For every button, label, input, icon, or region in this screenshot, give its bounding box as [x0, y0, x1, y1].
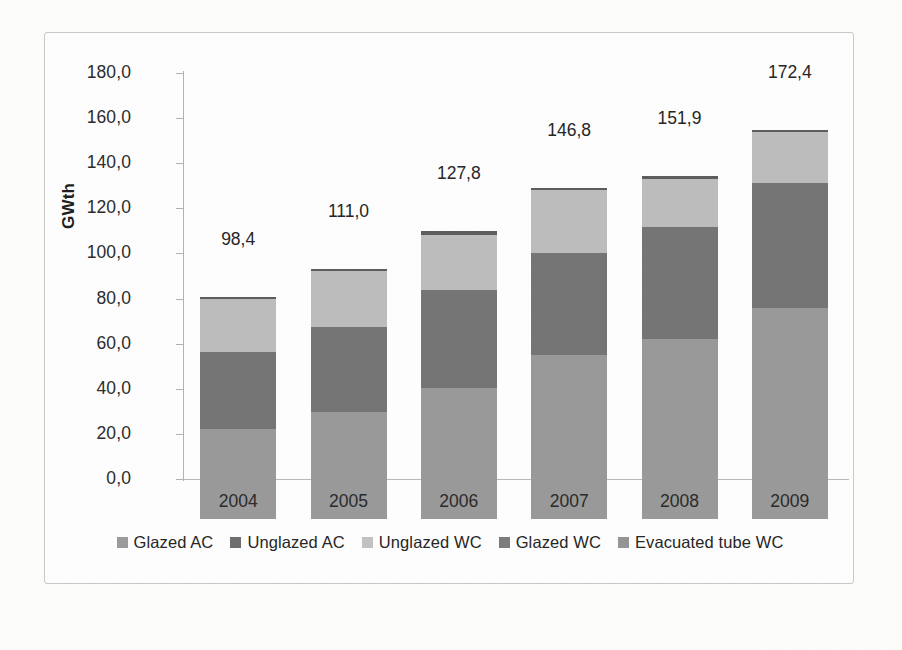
y-axis-tick-label: 180,0 — [47, 62, 131, 83]
bar-segment[interactable] — [642, 176, 718, 178]
bar-segment[interactable] — [531, 253, 607, 356]
legend-swatch-icon — [117, 537, 128, 548]
y-axis-tick-label: 40,0 — [47, 378, 131, 399]
y-axis-tick-label: 20,0 — [47, 423, 131, 444]
legend-item[interactable]: Evacuated tube WC — [618, 533, 783, 552]
bar-total-label: 172,4 — [724, 62, 856, 83]
bar-segment[interactable] — [642, 227, 718, 339]
bar-segment[interactable] — [752, 308, 828, 519]
legend-swatch-icon — [230, 537, 241, 548]
bar-group[interactable] — [311, 113, 387, 519]
legend-label: Unglazed WC — [379, 533, 482, 552]
y-axis-tick — [176, 253, 183, 254]
y-axis-tick — [176, 299, 183, 300]
bar-stack[interactable] — [421, 231, 497, 519]
y-axis-tick-label: 140,0 — [47, 152, 131, 173]
legend-item[interactable]: Glazed AC — [117, 533, 214, 552]
bar-total-label: 151,9 — [614, 108, 746, 129]
y-axis-tick-label: 160,0 — [47, 107, 131, 128]
legend-item[interactable]: Unglazed WC — [362, 533, 482, 552]
bar-segment[interactable] — [311, 327, 387, 412]
y-axis-tick — [176, 389, 183, 390]
legend-label: Evacuated tube WC — [635, 533, 783, 552]
y-axis-tick-label: 80,0 — [47, 288, 131, 309]
bar-segment[interactable] — [200, 352, 276, 429]
y-axis-tick — [176, 344, 183, 345]
bar-segment[interactable] — [421, 290, 497, 388]
bar-segment[interactable] — [752, 130, 828, 132]
chart-frame: GWth 0,020,040,060,080,0100,0120,0140,01… — [44, 32, 854, 584]
y-axis-tick — [176, 479, 183, 480]
legend-swatch-icon — [499, 537, 510, 548]
legend-item[interactable]: Glazed WC — [499, 533, 601, 552]
bar-segment[interactable] — [531, 188, 607, 190]
bar-total-label: 111,0 — [283, 201, 415, 222]
y-axis-tick-label: 120,0 — [47, 197, 131, 218]
x-axis-tick-label: 2009 — [724, 491, 856, 512]
legend-swatch-icon — [362, 537, 373, 548]
legend-label: Glazed AC — [134, 533, 214, 552]
bar-segment[interactable] — [421, 231, 497, 236]
chart-legend: Glazed ACUnglazed ACUnglazed WCGlazed WC… — [45, 533, 855, 552]
bar-segment[interactable] — [752, 132, 828, 183]
x-axis-line — [183, 479, 849, 480]
y-axis-tick-label: 100,0 — [47, 242, 131, 263]
bar-group[interactable] — [752, 113, 828, 519]
bar-total-label: 127,8 — [393, 163, 525, 184]
bar-segment[interactable] — [752, 183, 828, 308]
bar-total-label: 98,4 — [172, 229, 304, 250]
bar-stack[interactable] — [531, 188, 607, 519]
legend-swatch-icon — [618, 537, 629, 548]
bar-segment[interactable] — [642, 179, 718, 227]
legend-label: Unglazed AC — [247, 533, 344, 552]
bar-stack[interactable] — [200, 297, 276, 519]
y-axis-tick — [176, 73, 183, 74]
bar-stack[interactable] — [752, 130, 828, 519]
bar-stack[interactable] — [311, 269, 387, 519]
y-axis-tick — [176, 163, 183, 164]
bar-group[interactable] — [200, 113, 276, 519]
y-axis-tick — [176, 208, 183, 209]
legend-label: Glazed WC — [516, 533, 601, 552]
bar-group[interactable] — [531, 113, 607, 519]
y-axis-tick — [176, 118, 183, 119]
bar-segment[interactable] — [531, 190, 607, 253]
bar-segment[interactable] — [200, 297, 276, 299]
bar-segment[interactable] — [200, 299, 276, 352]
bar-segment[interactable] — [311, 269, 387, 271]
bar-group[interactable] — [642, 113, 718, 519]
y-axis-tick — [176, 434, 183, 435]
legend-item[interactable]: Unglazed AC — [230, 533, 344, 552]
y-axis-tick-label: 60,0 — [47, 333, 131, 354]
bar-segment[interactable] — [421, 235, 497, 290]
bar-stack[interactable] — [642, 176, 718, 519]
bar-segment[interactable] — [311, 271, 387, 327]
y-axis-tick-label: 0,0 — [47, 468, 131, 489]
